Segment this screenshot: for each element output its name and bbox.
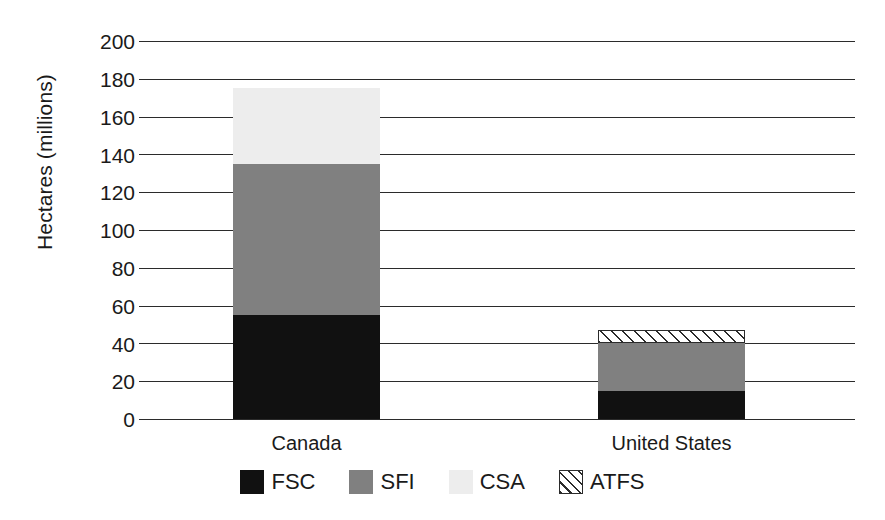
y-tick-label: 60 (75, 296, 135, 317)
black-square-swatch-icon (240, 470, 264, 494)
bar-segment-united-states-fsc[interactable] (598, 391, 745, 419)
plot-area (139, 41, 855, 419)
y-tick-label: 80 (75, 258, 135, 279)
x-axis-label-united-states: United States (548, 432, 795, 455)
legend: FSC SFI CSA ATFS (0, 470, 885, 494)
bar-segment-canada-csa[interactable] (233, 88, 380, 164)
bar-segment-canada-sfi[interactable] (233, 164, 380, 315)
gray-square-swatch-icon (349, 470, 373, 494)
y-tick-label: 100 (75, 220, 135, 241)
y-tick-label: 20 (75, 371, 135, 392)
y-tick-label: 0 (75, 409, 135, 430)
light-gray-square-swatch-icon (449, 470, 473, 494)
y-axis-title: Hectares (millions) (33, 47, 57, 277)
legend-item-atfs[interactable]: ATFS (559, 470, 645, 494)
legend-label-fsc: FSC (271, 471, 315, 493)
y-tick-label: 200 (75, 31, 135, 52)
legend-item-fsc[interactable]: FSC (240, 470, 315, 494)
y-tick-label: 180 (75, 69, 135, 90)
bar-segment-canada-fsc[interactable] (233, 315, 380, 419)
bar-segment-united-states-atfs[interactable] (598, 330, 745, 343)
x-axis-label-canada: Canada (183, 432, 430, 455)
gridline-0 (139, 419, 855, 420)
y-tick-label: 140 (75, 145, 135, 166)
legend-item-sfi[interactable]: SFI (349, 470, 414, 494)
legend-label-csa: CSA (480, 471, 525, 493)
y-tick-label: 40 (75, 334, 135, 355)
gridline-200 (139, 41, 855, 42)
bar-canada[interactable] (233, 88, 380, 419)
y-tick-label: 120 (75, 182, 135, 203)
hatched-square-swatch-icon (559, 470, 583, 494)
legend-item-csa[interactable]: CSA (449, 470, 525, 494)
bar-united-states[interactable] (598, 330, 745, 419)
bar-segment-united-states-sfi[interactable] (598, 343, 745, 390)
legend-label-atfs: ATFS (590, 471, 645, 493)
gridline-180 (139, 79, 855, 80)
y-tick-label: 160 (75, 107, 135, 128)
legend-label-sfi: SFI (380, 471, 414, 493)
stacked-bar-chart: Hectares (millions) 200 180 160 140 120 … (0, 0, 885, 520)
